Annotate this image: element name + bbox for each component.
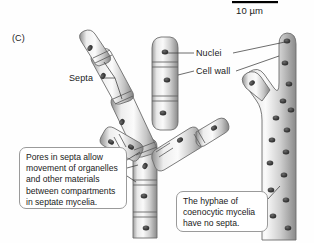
label-cell-wall: Cell wall — [196, 66, 230, 76]
label-nuclei: Nuclei — [196, 48, 222, 58]
callout-septate-pores: Pores in septa allow movement of organel… — [19, 147, 127, 209]
scale-bar — [232, 1, 278, 3]
label-septa: Septa — [69, 73, 93, 83]
panel-label: (C) — [12, 33, 25, 43]
figure-panel-c: (C) 10 µm Nuclei Cell wall Septa Pores i… — [0, 0, 314, 243]
callout-coenocytic: The hyphae of coenocytic mycelia have no… — [176, 191, 268, 232]
scale-bar-label: 10 µm — [236, 5, 263, 16]
